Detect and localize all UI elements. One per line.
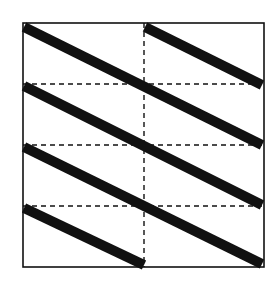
- striped-square-diagram: [0, 0, 277, 292]
